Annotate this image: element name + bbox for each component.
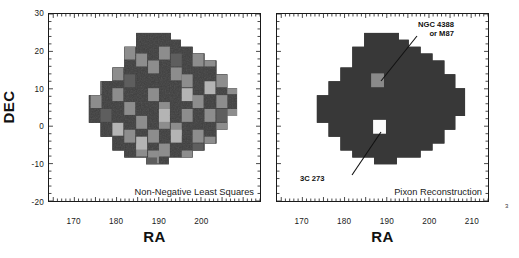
panel-nnls: Non-Negative Least Squares 170 180 190 2… [48, 13, 261, 202]
annotation-3c273: 3C 273 [300, 174, 325, 183]
axis-exponent-marker: 3 [505, 203, 508, 209]
axis-title-ra-left: RA [143, 228, 165, 245]
axis-title-dec: DEC [0, 91, 17, 124]
annotation-3c273-line1: 3C 273 [300, 174, 325, 183]
panel-caption-pixon: Pixon Reconstruction [394, 187, 482, 197]
panel-caption-nnls: Non-Negative Least Squares [135, 187, 254, 197]
xtick-label-170-right: 170 [294, 217, 308, 226]
xtick-label-190-right: 190 [380, 217, 394, 226]
xtick-label-190-left: 190 [152, 217, 166, 226]
sky-image-nnls [49, 14, 260, 201]
xtick-label-180-left: 180 [109, 217, 123, 226]
ytick-label-0: 0 [39, 122, 44, 131]
ytick-label-minus20: -20 [32, 198, 44, 207]
axis-title-ra-right: RA [371, 228, 393, 245]
sky-image-pixon [277, 14, 488, 201]
ytick-label-30: 30 [34, 9, 44, 18]
xtick-label-180-right: 180 [337, 217, 351, 226]
ytick-label-10: 10 [34, 84, 44, 93]
annotation-ngc4388: NGC 4388 or M87 [418, 20, 454, 39]
xtick-label-200-left: 200 [194, 217, 208, 226]
ytick-label-20: 20 [34, 46, 44, 55]
source-3c273 [373, 120, 386, 134]
annotation-ngc4388-line1: NGC 4388 [418, 20, 454, 29]
annotation-ngc4388-line2: or M87 [418, 29, 454, 38]
plot-frame-left: Non-Negative Least Squares [48, 13, 261, 202]
xtick-label-200-right: 200 [422, 217, 436, 226]
source-ngc4388 [371, 73, 384, 87]
figure-root: Non-Negative Least Squares 170 180 190 2… [0, 0, 519, 258]
xtick-label-210-right: 210 [465, 217, 479, 226]
ytick-label-minus10: -10 [32, 160, 44, 169]
xtick-label-170-left: 170 [66, 217, 80, 226]
